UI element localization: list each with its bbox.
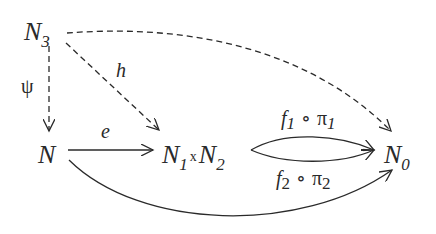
arrow-h — [66, 43, 159, 130]
node-n3: N3 — [23, 17, 50, 51]
node-n: N — [37, 140, 57, 169]
label-h: h — [116, 59, 126, 81]
label-e: e — [101, 120, 110, 142]
commutative-diagram: N3 N N1xN2 N0 ψ h e f1∘π1 f2∘π2 — [0, 0, 436, 234]
label-f1-pi1: f1∘π1 — [281, 107, 335, 133]
node-n0: N0 — [383, 140, 410, 174]
arrow-top-dashed — [67, 31, 391, 131]
arrow-bottom — [69, 160, 392, 216]
arrow-f2 — [251, 150, 374, 161]
label-psi: ψ — [21, 75, 34, 98]
arrow-f1 — [251, 137, 374, 150]
node-product: N1xN2 — [161, 140, 225, 174]
label-f2-pi2: f2∘π2 — [276, 167, 330, 193]
